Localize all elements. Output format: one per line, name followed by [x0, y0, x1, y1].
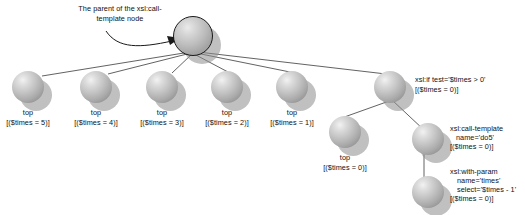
node-label-param-line2: name='times'	[457, 176, 500, 185]
node-top0[interactable]	[329, 116, 361, 148]
node-top3[interactable]	[146, 71, 178, 103]
node-xsl-with-param[interactable]	[412, 176, 444, 208]
node-label-xslif-line2: [($times = 0)]	[415, 85, 458, 94]
node-label-call-line2: name='do5'	[456, 133, 494, 142]
node-label-top0-name: top	[305, 153, 385, 162]
node-xsl-call-template[interactable]	[412, 123, 444, 155]
node-label-top1-pred: [($times = 1)]	[252, 118, 332, 127]
node-top5[interactable]	[12, 71, 44, 103]
node-xsl-if[interactable]	[374, 71, 406, 103]
node-label-top0-pred: [($times = 0)]	[305, 163, 385, 172]
node-top2[interactable]	[211, 71, 243, 103]
node-label-param-line3: select='$times - 1'	[457, 185, 516, 194]
node-label-param-line4: [($times = 0)]	[450, 194, 493, 203]
diagram-canvas: The parent of the xsl:call- template nod…	[0, 0, 525, 215]
node-root[interactable]	[173, 16, 213, 56]
annotation-arrow	[106, 31, 180, 46]
node-label-param-line1: xsl:with-param	[450, 167, 498, 176]
node-label-call-line1: xsl:call-template	[450, 124, 503, 133]
node-top4[interactable]	[80, 71, 112, 103]
node-top1[interactable]	[276, 71, 308, 103]
annotation-text: The parent of the xsl:call- template nod…	[50, 4, 190, 23]
node-label-top1-name: top	[252, 108, 332, 117]
node-label-xslif-line1: xsl:if test='$times > 0'	[415, 75, 486, 84]
node-label-call-line3: [($times = 0)]	[450, 142, 493, 151]
